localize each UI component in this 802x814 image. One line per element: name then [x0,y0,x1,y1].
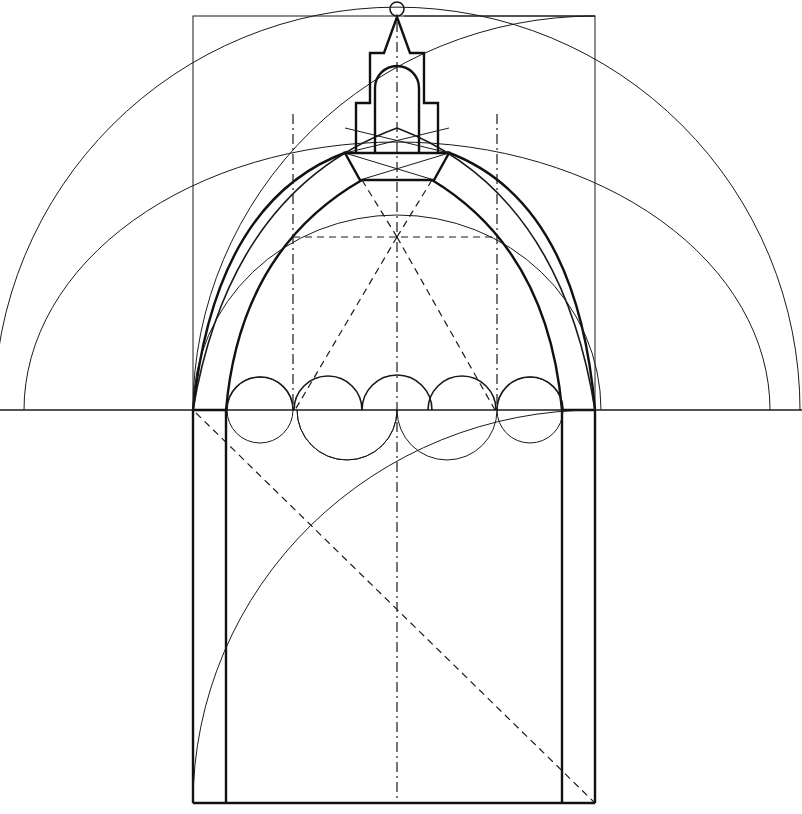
circle-2-bottom [297,410,397,460]
dash-lower-left [295,237,397,410]
dash-lower-right [397,237,495,410]
circle-4-bottom [397,410,497,460]
dash-upper-left [362,180,397,237]
circle-1-top [227,377,293,410]
circle-5-top [497,377,563,410]
arc-left-to-lantern [193,128,397,410]
dash-upper-right [397,180,432,237]
dome-outer-right [447,152,595,410]
quarter-arc-top [193,16,595,410]
diagonal-dashed [196,413,595,803]
dome-construction-diagram [0,0,802,814]
circle-2-top [294,376,362,410]
outer-semicircle-large [0,7,800,410]
dome-outer-left [193,152,347,410]
circle-4-top [428,376,496,410]
